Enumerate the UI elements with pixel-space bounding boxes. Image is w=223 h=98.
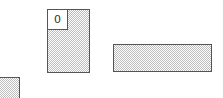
hatched-block-labeled[interactable]: 0 [47,9,90,73]
block-label: 0 [48,10,68,30]
hatched-block-partial[interactable] [0,77,20,98]
hatched-block-wide[interactable] [113,44,212,72]
